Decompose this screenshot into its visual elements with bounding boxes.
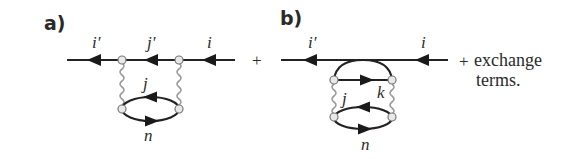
panel-b-label: b) xyxy=(280,7,302,29)
arrow-right-icon xyxy=(358,124,372,135)
vertex xyxy=(118,105,126,113)
index-j: j xyxy=(340,89,347,108)
vertex xyxy=(330,113,338,121)
index-i: i xyxy=(207,33,212,52)
exchange-text: exchange xyxy=(474,50,542,70)
plus-sign-suffix: + xyxy=(459,52,469,71)
interaction-line-left xyxy=(120,63,124,105)
arrow-left-icon xyxy=(202,54,216,66)
arrow-left-icon xyxy=(143,92,157,103)
index-j-prime: j' xyxy=(145,33,156,52)
index-i-prime: i' xyxy=(92,33,101,52)
plus-sign: + xyxy=(252,51,262,70)
index-i-prime: i' xyxy=(308,33,317,52)
arrow-left-icon xyxy=(303,54,317,66)
panel-a-label: a) xyxy=(44,12,66,34)
arrow-left-icon xyxy=(356,102,370,113)
index-n: n xyxy=(361,135,370,154)
panel-b: b) i' i j k n xyxy=(280,7,448,154)
vertex xyxy=(388,113,396,121)
arrow-right-icon xyxy=(360,75,374,86)
arrow-left-icon xyxy=(87,54,101,66)
panel-a-fermion-loop xyxy=(122,97,179,121)
vertex xyxy=(330,76,338,84)
arrow-left-icon xyxy=(144,54,158,66)
index-k: k xyxy=(377,83,385,102)
interaction-line-right xyxy=(177,63,181,105)
vertex xyxy=(118,56,126,64)
vertex xyxy=(175,56,183,64)
terms-text: terms. xyxy=(476,70,521,90)
arrow-left-icon xyxy=(415,54,429,66)
panel-a: a) i' j' i j n xyxy=(44,12,235,145)
vertex xyxy=(388,76,396,84)
index-i: i xyxy=(421,33,426,52)
vertex xyxy=(175,105,183,113)
index-n: n xyxy=(144,126,153,145)
feynman-diagram-figure: a) i' j' i j n + b) i' i xyxy=(0,0,579,159)
arrow-right-icon xyxy=(145,116,159,127)
index-j: j xyxy=(141,74,148,93)
